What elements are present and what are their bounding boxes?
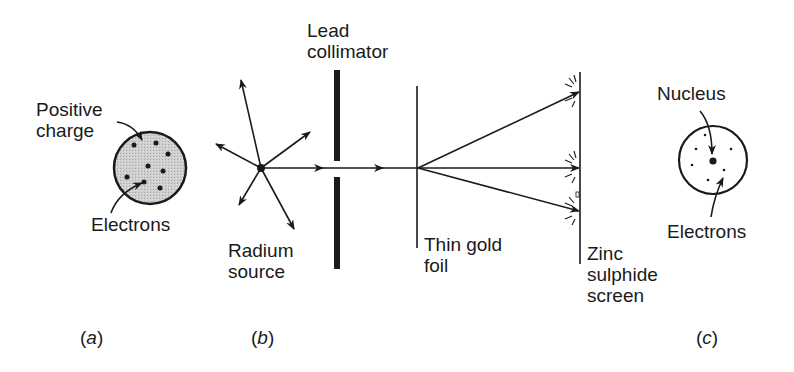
label-zinc-sulphide-screen: Zinc sulphide screen [587, 243, 658, 306]
lead-collimator-upper [334, 70, 340, 161]
caption-a: (a) [80, 327, 103, 348]
thomson-atom-model [111, 122, 186, 213]
label-positive-charge: Positive charge [36, 99, 103, 141]
caption-b-letter: b [257, 327, 268, 348]
label-thin-gold-foil: Thin gold foil [424, 234, 502, 276]
caption-a-letter: a [86, 327, 97, 348]
label-electrons-a: Electrons [91, 214, 170, 235]
caption-b: (b) [251, 327, 274, 348]
rutherford-atom-model [679, 111, 747, 217]
label-lead-collimator: Lead collimator [307, 20, 388, 62]
lead-collimator-lower [334, 177, 340, 269]
label-electrons-c: Electrons [667, 221, 746, 242]
label-nucleus: Nucleus [657, 83, 726, 104]
nucleus-dot [709, 157, 716, 164]
diagram-canvas [0, 0, 794, 372]
label-radium-source: Radium source [228, 240, 293, 282]
caption-c-letter: c [702, 327, 712, 348]
caption-c: (c) [696, 327, 718, 348]
